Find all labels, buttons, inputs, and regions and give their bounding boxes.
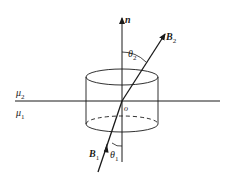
b2-field-vector	[122, 34, 165, 101]
b2-label: B2	[165, 31, 177, 45]
boundary-diagram: n B2 θ2 μ2 μ1 o B1 θ1	[0, 0, 235, 189]
mu1-label: μ1	[15, 107, 25, 121]
theta1-label: θ1	[110, 149, 119, 163]
mu2-label: μ2	[15, 87, 25, 101]
normal-label: n	[125, 14, 131, 25]
theta1-arc	[112, 143, 122, 146]
origin-label: o	[124, 104, 128, 113]
b1-label: B1	[88, 148, 100, 162]
b1-arrowhead-icon-fill	[104, 144, 109, 153]
theta2-label: θ2	[128, 48, 137, 62]
